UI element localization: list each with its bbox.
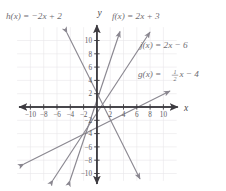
- y-tick-label: 8: [88, 51, 92, 59]
- y-tick-label: −10: [81, 170, 93, 178]
- coordinate-plane-svg: −10 −8 −6 −4 −2 2 4 6 8 10 10 8 6 4 2 −2…: [0, 0, 226, 191]
- x-tick-label: −8: [40, 111, 48, 119]
- x-tick-label: 10: [160, 111, 168, 119]
- equation-label-g-suffix: x − 4: [179, 69, 200, 79]
- y-tick-label: 4: [88, 77, 92, 85]
- equation-label-g-prefix: g(x) =: [138, 69, 161, 79]
- y-tick-label: 10: [85, 37, 93, 45]
- y-tick-label: 6: [88, 64, 92, 72]
- y-tick-label: −8: [84, 157, 92, 165]
- graph-figure: −10 −8 −6 −4 −2 2 4 6 8 10 10 8 6 4 2 −2…: [0, 0, 226, 191]
- x-tick-label: −4: [66, 111, 74, 119]
- x-tick-label: 2: [108, 111, 112, 119]
- y-tick-labels: 10 8 6 4 2 −2 −4 −6 −8 −10: [81, 37, 93, 178]
- x-tick-label: 8: [148, 111, 152, 119]
- equation-label-h: h(x) = −2x + 2: [6, 11, 62, 21]
- y-tick-label: −6: [84, 144, 92, 152]
- fraction-numerator: 1: [174, 69, 177, 75]
- x-tick-label: −10: [25, 111, 37, 119]
- equation-label-j: j(x) = 2x − 6: [139, 40, 188, 50]
- x-tick-label: 4: [122, 111, 126, 119]
- x-tick-label: −6: [53, 111, 61, 119]
- line-f: [53, 32, 150, 180]
- x-axis-label: x: [183, 103, 189, 113]
- x-tick-label: 6: [135, 111, 139, 119]
- y-tick-label: −2: [84, 117, 92, 125]
- y-axis-label: y: [96, 8, 102, 18]
- equation-label-f: f(x) = 2x + 3: [112, 11, 160, 21]
- y-tick-label: −4: [84, 130, 92, 138]
- y-tick-label: 2: [88, 90, 92, 98]
- fraction-denominator: 2: [174, 76, 177, 82]
